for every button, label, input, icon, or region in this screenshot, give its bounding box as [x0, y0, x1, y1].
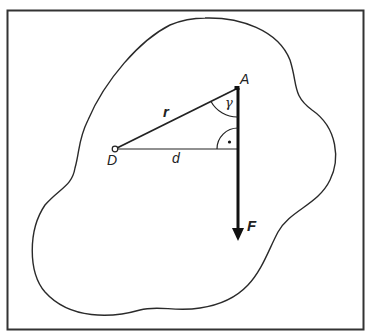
right-angle-arc	[217, 128, 238, 149]
point-A-marker	[235, 86, 240, 90]
right-angle-dot	[228, 140, 231, 143]
label-r: r	[163, 103, 170, 120]
label-F: F	[247, 217, 257, 234]
torque-diagram: A D r d γ F	[0, 0, 370, 336]
force-arrowhead-icon	[232, 228, 244, 241]
label-A: A	[239, 71, 249, 87]
rigid-body-outline	[32, 18, 335, 315]
frame-border	[8, 11, 364, 330]
pivot-point-D	[112, 146, 118, 152]
label-d: d	[172, 150, 181, 166]
label-gamma: γ	[225, 95, 233, 110]
label-D: D	[107, 152, 117, 168]
